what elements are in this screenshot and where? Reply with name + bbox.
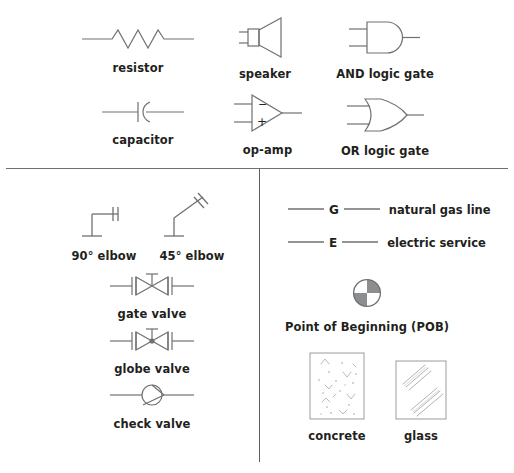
or-gate-symbol	[325, 95, 445, 141]
and-gate-symbol	[325, 18, 445, 64]
symbol-item-elbow-90: 90° elbow	[62, 196, 146, 263]
elbow-45-symbol	[150, 188, 234, 246]
symbol-label: capacitor	[112, 133, 173, 147]
concrete-hatch-symbol	[309, 352, 365, 424]
symbol-item-capacitor: capacitor	[88, 98, 198, 147]
op-amp-noninverting-label: +	[257, 115, 267, 129]
symbol-item-electric-line: E electric service	[288, 233, 486, 252]
symbol-label: concrete	[308, 429, 365, 443]
utility-line-symbol	[342, 233, 378, 252]
utility-line-symbol	[288, 200, 324, 219]
symbol-label: 45° elbow	[159, 249, 224, 263]
symbol-item-resistor: resistor	[78, 24, 198, 75]
symbol-label: gate valve	[118, 307, 187, 321]
symbol-item-speaker: speaker	[225, 15, 305, 81]
symbol-item-check-valve: check valve	[92, 378, 212, 431]
symbol-item-point-of-beginning: Point of Beginning (POB)	[272, 276, 462, 334]
symbol-label: check valve	[114, 417, 191, 431]
utility-line-letter: G	[329, 203, 339, 217]
op-amp-inverting-label: −	[258, 98, 267, 111]
symbol-label: 90° elbow	[71, 249, 136, 263]
utility-line-symbol	[344, 200, 380, 219]
capacitor-symbol	[88, 98, 198, 130]
symbol-item-gas-line: G natural gas line	[288, 200, 491, 219]
elbow-90-symbol	[62, 196, 146, 246]
symbol-label: OR logic gate	[341, 144, 429, 158]
symbol-label: electric service	[387, 236, 486, 250]
symbol-item-globe-valve: globe valve	[92, 323, 212, 376]
resistor-symbol	[78, 24, 198, 58]
symbol-item-elbow-45: 45° elbow	[150, 188, 234, 263]
symbol-label: Point of Beginning (POB)	[285, 320, 449, 334]
symbol-label: speaker	[239, 67, 291, 81]
symbol-item-concrete: concrete	[305, 352, 369, 443]
symbol-item-or-gate: OR logic gate	[325, 95, 445, 158]
utility-line-letter: E	[329, 236, 337, 250]
glass-hatch-symbol	[395, 360, 447, 424]
section-divider-vertical	[259, 169, 260, 462]
speaker-symbol	[225, 15, 305, 64]
section-divider-horizontal	[6, 168, 508, 169]
check-valve-symbol	[92, 378, 212, 414]
op-amp-symbol: − +	[220, 92, 315, 140]
symbol-legend-figure: resistor speaker	[0, 0, 514, 473]
symbol-label: natural gas line	[389, 203, 491, 217]
symbol-item-gate-valve: gate valve	[92, 268, 212, 321]
point-of-beginning-symbol	[350, 276, 384, 314]
symbol-item-and-gate: AND logic gate	[325, 18, 445, 81]
symbol-label: op-amp	[243, 143, 292, 157]
globe-valve-symbol	[92, 323, 212, 359]
symbol-label: AND logic gate	[336, 67, 434, 81]
symbol-item-op-amp: − + op-amp	[220, 92, 315, 157]
symbol-label: globe valve	[114, 362, 190, 376]
utility-line-symbol	[288, 233, 324, 252]
gate-valve-symbol	[92, 268, 212, 304]
symbol-label: resistor	[113, 61, 164, 75]
symbol-label: glass	[404, 429, 438, 443]
symbol-item-glass: glass	[390, 360, 452, 443]
